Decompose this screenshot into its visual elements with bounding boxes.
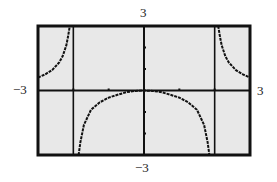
y-max-label: 3	[140, 6, 147, 19]
x-max-label: 3	[257, 84, 264, 97]
y-min-label: −3	[135, 161, 149, 174]
x-tick	[108, 89, 110, 91]
graph-screen	[0, 0, 277, 182]
y-tick	[144, 47, 146, 49]
x-tick	[178, 89, 180, 91]
y-tick	[144, 111, 146, 113]
x-min-label: −3	[13, 83, 27, 96]
y-tick	[144, 133, 146, 135]
y-tick	[144, 68, 146, 70]
